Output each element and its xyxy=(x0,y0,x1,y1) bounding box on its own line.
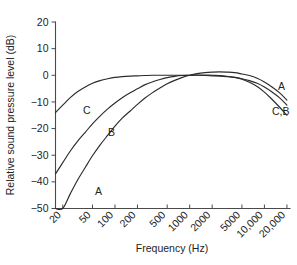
y-tick-label: 0 xyxy=(43,69,49,81)
y-tick-label: 10 xyxy=(37,42,49,54)
y-tick-label: 20 xyxy=(37,16,49,28)
curve-group xyxy=(56,72,287,210)
x-axis-ticks xyxy=(63,205,287,209)
curve-annotations: CBAAC,B xyxy=(83,80,289,197)
x-tick-label: 1000 xyxy=(165,208,190,233)
y-axis-tick-labels: 20100−10−20−30−40−50 xyxy=(31,16,49,215)
weighting-curves-chart: 20100−10−20−30−40−50 2050100200500100020… xyxy=(0,0,297,265)
x-tick-label: 2000 xyxy=(188,208,213,233)
y-tick-label: −10 xyxy=(31,96,49,108)
y-axis-ticks xyxy=(52,22,56,209)
y-axis-title: Relative sound pressure level (dB) xyxy=(4,35,16,196)
x-tick-label: 100 xyxy=(95,208,116,229)
y-tick-label: −50 xyxy=(31,202,49,214)
x-tick-label: 20 xyxy=(46,208,63,225)
curve-label-left-b: B xyxy=(108,126,115,138)
curve-label-right-cb: C,B xyxy=(272,105,290,117)
y-tick-label: −40 xyxy=(31,175,49,187)
x-axis-title: Frequency (Hz) xyxy=(136,242,208,254)
x-tick-label: 500 xyxy=(147,208,168,229)
x-tick-label: 200 xyxy=(117,208,138,229)
x-axis-tick-labels: 205010020050010002000500010,00020,000 xyxy=(46,208,287,239)
y-tick-label: −20 xyxy=(31,122,49,134)
curve-a xyxy=(56,72,287,210)
curve-label-left-a: A xyxy=(95,185,102,197)
x-tick-label: 50 xyxy=(76,208,93,225)
chart-figure: 20100−10−20−30−40−50 2050100200500100020… xyxy=(0,0,297,265)
y-tick-label: −30 xyxy=(31,149,49,161)
curve-label-right-a: A xyxy=(278,80,285,92)
curve-label-left-c: C xyxy=(83,104,91,116)
